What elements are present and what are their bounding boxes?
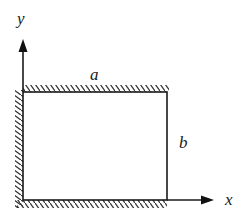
y-axis-arrowhead-icon: [19, 39, 28, 52]
clamped-edge-left-hatch: [15, 90, 23, 208]
plate-rectangle: [23, 92, 167, 200]
diagram-canvas: y a b x: [0, 0, 246, 220]
clamped-edge-bottom-hatch: [17, 200, 167, 208]
width-label-a: a: [90, 65, 99, 84]
plate-diagram: y a b x: [0, 0, 246, 220]
x-axis-arrowhead-icon: [201, 196, 214, 205]
height-label-b: b: [179, 133, 188, 152]
y-axis-label: y: [15, 9, 25, 28]
y-axis: [19, 39, 28, 92]
clamped-edge-top-hatch: [23, 85, 169, 92]
x-axis: [167, 196, 214, 205]
x-axis-label: x: [224, 190, 233, 209]
